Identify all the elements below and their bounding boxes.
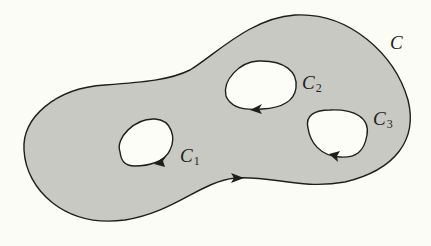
label-c: C (390, 33, 403, 52)
label-c2-main: C (302, 72, 315, 93)
label-c1: C1 (180, 146, 200, 167)
label-c1-sub: 1 (194, 154, 200, 168)
label-c3-main: C (373, 108, 386, 129)
label-c3: C3 (373, 109, 393, 130)
label-c2: C2 (302, 73, 322, 94)
contour-diagram: C C2 C3 C1 (0, 0, 431, 246)
label-c2-sub: 2 (316, 81, 322, 95)
label-c-main: C (390, 32, 403, 53)
region-svg (0, 0, 431, 246)
label-c1-main: C (180, 145, 193, 166)
label-c3-sub: 3 (387, 117, 393, 131)
